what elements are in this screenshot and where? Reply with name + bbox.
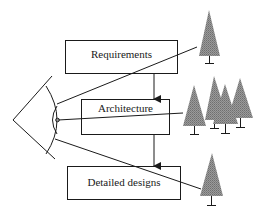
box-label: Requirements bbox=[91, 48, 152, 60]
tree-cluster bbox=[183, 76, 253, 135]
tree-icon-bottom bbox=[200, 153, 223, 206]
box-label: Architecture bbox=[98, 102, 153, 114]
tree-icon-top bbox=[199, 10, 220, 64]
eye-icon bbox=[13, 76, 59, 159]
box-label: Detailed designs bbox=[87, 176, 160, 188]
box-detailed-designs: Detailed designs bbox=[68, 167, 181, 200]
forest-and-trees-diagram: Requirements Architecture Detailed desig… bbox=[0, 0, 263, 216]
tree-icon-cluster-4 bbox=[183, 85, 206, 135]
box-architecture: Architecture bbox=[82, 100, 170, 135]
box-requirements: Requirements bbox=[66, 41, 178, 74]
eye-lids bbox=[13, 76, 55, 159]
